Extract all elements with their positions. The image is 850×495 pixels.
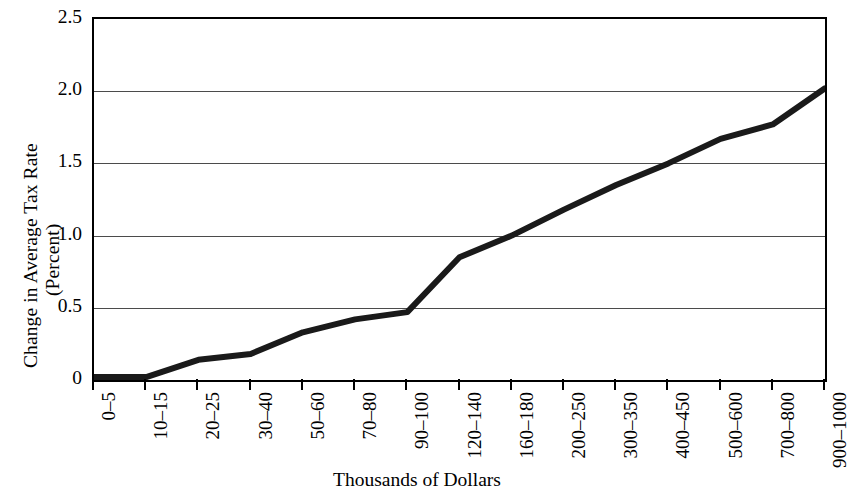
- x-axis-tick: [614, 379, 616, 390]
- y-axis-tick-label: 0.5: [36, 296, 82, 316]
- y-axis-tick-labels: 2.52.01.51.00.50: [36, 0, 82, 390]
- series-polyline: [94, 88, 825, 377]
- x-axis-tick-label: 300–350: [621, 392, 640, 459]
- data-series-line: [94, 19, 825, 380]
- y-axis-tick-label: 1.5: [36, 151, 82, 171]
- y-axis-tick-label: 2.0: [36, 79, 82, 99]
- x-axis-tick-label: 700–800: [778, 392, 797, 459]
- x-axis-tick-labels: 0–510–1520–2530–4050–6070–8090–100120–14…: [0, 392, 834, 472]
- x-axis-tick-label: 10–15: [151, 392, 170, 440]
- x-axis-tick: [562, 379, 564, 390]
- x-axis-tick: [771, 379, 773, 390]
- x-axis-tick: [510, 379, 512, 390]
- plot-inner: [94, 19, 825, 380]
- x-axis-tick-label: 500–600: [726, 392, 745, 459]
- x-axis-tick-label: 0–5: [99, 392, 118, 421]
- x-axis-tick-label: 400–450: [673, 392, 692, 459]
- x-axis-tick: [405, 379, 407, 390]
- x-axis-tick-label: 90–100: [412, 392, 431, 449]
- x-axis-tick: [301, 379, 303, 390]
- y-axis-tick-label: 1.0: [36, 224, 82, 244]
- x-axis-tick: [92, 379, 94, 390]
- x-axis-tick: [353, 379, 355, 390]
- y-axis-title: Change in Average Tax Rate (Percent): [0, 0, 40, 390]
- x-axis-tick: [719, 379, 721, 390]
- x-axis-tick-label: 120–140: [465, 392, 484, 459]
- x-axis-tick: [196, 379, 198, 390]
- x-axis-tick: [458, 379, 460, 390]
- x-axis-tick-label: 70–80: [360, 392, 379, 440]
- x-axis-tick: [823, 379, 825, 390]
- x-axis-tick-label: 20–25: [203, 392, 222, 440]
- x-axis-tick-label: 30–40: [256, 392, 275, 440]
- x-axis-tick: [249, 379, 251, 390]
- x-axis-title: Thousands of Dollars: [0, 469, 834, 491]
- y-axis-tick-label: 2.5: [36, 7, 82, 27]
- x-axis-tick-label: 900–1000: [830, 392, 849, 468]
- x-axis-ticks: [0, 379, 834, 391]
- x-axis-tick: [666, 379, 668, 390]
- x-axis-tick: [144, 379, 146, 390]
- x-axis-tick-label: 160–180: [517, 392, 536, 459]
- x-axis-tick-label: 50–60: [308, 392, 327, 440]
- plot-area: [92, 17, 827, 382]
- x-axis-tick-label: 200–250: [569, 392, 588, 459]
